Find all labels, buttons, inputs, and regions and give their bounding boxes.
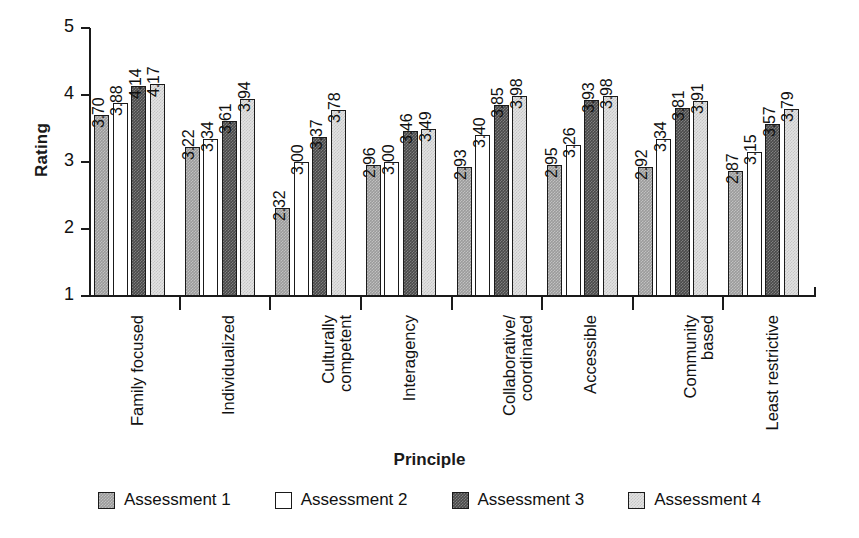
bar [512, 96, 527, 296]
bar-value-label: 3.61 [217, 104, 235, 134]
x-axis-line [89, 295, 816, 297]
x-axis-category-label-line: Culturally [320, 315, 337, 392]
x-axis-group-tick [541, 297, 543, 310]
bar [475, 135, 490, 296]
bar [222, 121, 237, 296]
bar [693, 101, 708, 296]
bar [656, 139, 671, 296]
bar-value-label: 3.34 [652, 122, 670, 152]
bar-value-label: 2.93 [452, 149, 470, 179]
bar-value-label: 3.49 [417, 112, 435, 142]
x-axis-category-label-line: based [699, 315, 716, 398]
legend-item[interactable]: Assessment 4 [628, 490, 761, 510]
bar-value-label: 3.94 [236, 82, 254, 112]
bar [603, 96, 618, 296]
bar [131, 86, 146, 296]
bar-value-label: 3.91 [689, 84, 707, 114]
x-axis-group-tick [451, 297, 453, 310]
legend-label: Assessment 1 [124, 490, 231, 510]
x-axis-category-label-line: coordinated [518, 315, 535, 416]
y-axis-tick-label: 4 [48, 83, 74, 104]
y-axis-tick-label: 1 [48, 284, 74, 305]
x-axis-group-tick [632, 297, 634, 310]
x-axis-category-label-line: Accessible [582, 315, 599, 394]
bar [384, 162, 399, 296]
bar [366, 165, 381, 296]
bar-value-label: 3.00 [289, 145, 307, 175]
x-axis-category-label-line: Community [682, 315, 699, 398]
x-axis-category-label: Least restrictive [764, 315, 781, 431]
x-axis-category-label: Communitybased [682, 315, 716, 398]
x-axis-category-label-line: Collaborative/ [501, 315, 518, 416]
bar [747, 152, 762, 296]
legend-item[interactable]: Assessment 1 [98, 490, 231, 510]
x-axis-group-tick [179, 297, 181, 310]
bar-value-label: 3.85 [489, 88, 507, 118]
bar [728, 171, 743, 296]
bar [294, 162, 309, 296]
bar [457, 167, 472, 296]
bar-value-label: 3.15 [742, 135, 760, 165]
bar-value-label: 2.95 [543, 148, 561, 178]
legend-swatch-icon [275, 492, 292, 509]
bar-value-label: 3.98 [598, 79, 616, 109]
x-axis-category-label: Family focused [129, 315, 146, 426]
x-axis-group-tick [722, 297, 724, 310]
bar-value-label: 3.57 [761, 106, 779, 136]
bar-value-label: 2.32 [271, 190, 289, 220]
bar [675, 108, 690, 296]
bar [203, 139, 218, 296]
x-axis-category-label: Accessible [582, 315, 599, 394]
x-axis-category-label: Culturallycompetent [320, 315, 354, 392]
bar [765, 124, 780, 296]
bar-value-label: 3.70 [90, 98, 108, 128]
plot-area: 3.703.884.144.173.223.343.613.942.323.00… [89, 28, 814, 296]
bar-value-label: 3.22 [180, 130, 198, 160]
bar-value-label: 3.26 [561, 127, 579, 157]
legend-item[interactable]: Assessment 3 [452, 490, 585, 510]
x-axis-category-label-line: Individualized [220, 315, 237, 415]
x-axis-right-cap [814, 287, 816, 297]
bar-value-label: 3.93 [580, 82, 598, 112]
x-axis-category-label-line: Least restrictive [764, 315, 781, 431]
bar [240, 99, 255, 296]
x-axis-group-tick [360, 297, 362, 310]
y-axis-tick-label: 3 [48, 150, 74, 171]
bar-value-label: 3.37 [308, 120, 326, 150]
bar-value-label: 4.14 [127, 68, 145, 98]
bar [403, 131, 418, 296]
legend-swatch-icon [98, 492, 115, 509]
x-axis-category-label: Interagency [401, 315, 418, 401]
bar [94, 115, 109, 296]
bar [331, 110, 346, 296]
bar-value-label: 3.34 [199, 122, 217, 152]
bar [185, 147, 200, 296]
bar-value-label: 3.78 [326, 92, 344, 122]
bar [547, 165, 562, 296]
x-axis-title: Principle [0, 450, 859, 470]
x-axis-category-label: Individualized [220, 315, 237, 415]
bar-value-label: 3.88 [108, 86, 126, 116]
x-axis-category-label-line: competent [337, 315, 354, 392]
legend-label: Assessment 4 [654, 490, 761, 510]
bar-value-label: 4.17 [145, 66, 163, 96]
legend-item[interactable]: Assessment 2 [275, 490, 408, 510]
bar-value-label: 3.40 [471, 118, 489, 148]
bar [494, 105, 509, 296]
x-axis-category-label: Collaborative/coordinated [501, 315, 535, 416]
bar [150, 84, 165, 296]
x-axis-category-label-line: Family focused [129, 315, 146, 426]
y-axis-tick-label: 2 [48, 217, 74, 238]
bar [566, 145, 581, 296]
bar-value-label: 2.87 [724, 153, 742, 183]
legend-swatch-icon [452, 492, 469, 509]
chart-legend: Assessment 1Assessment 2Assessment 3Asse… [0, 490, 859, 510]
bar-value-label: 3.46 [398, 114, 416, 144]
bar-value-label: 2.96 [361, 147, 379, 177]
bar-value-label: 3.79 [779, 92, 797, 122]
bar-value-label: 3.81 [670, 90, 688, 120]
x-axis-category-label-line: Interagency [401, 315, 418, 401]
bar [638, 167, 653, 296]
bar-value-label: 2.92 [633, 150, 651, 180]
bar [312, 137, 327, 296]
